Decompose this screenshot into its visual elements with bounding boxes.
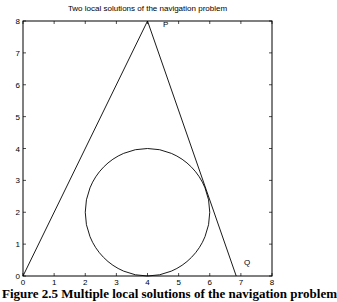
path-line — [23, 21, 148, 276]
point-label: Q — [244, 258, 250, 267]
path-line — [148, 21, 237, 276]
y-tick-label: 8 — [16, 17, 21, 26]
y-tick-label: 5 — [16, 113, 21, 122]
annotations: PQ — [163, 20, 250, 266]
figure-caption: Figure 2.5 Multiple local solutions of t… — [2, 286, 337, 302]
y-tick-label: 0 — [16, 272, 21, 281]
y-tick-label: 1 — [16, 240, 21, 249]
y-tick-label: 3 — [16, 176, 21, 185]
point-label: P — [163, 20, 168, 29]
obstacle-circle — [85, 149, 210, 277]
series-group — [23, 21, 236, 276]
axis-ticks: 012345678012345678 — [16, 17, 275, 287]
y-tick-label: 7 — [16, 49, 21, 58]
y-tick-label: 6 — [16, 81, 21, 90]
y-tick-label: 2 — [16, 208, 21, 217]
y-tick-label: 4 — [16, 145, 21, 154]
